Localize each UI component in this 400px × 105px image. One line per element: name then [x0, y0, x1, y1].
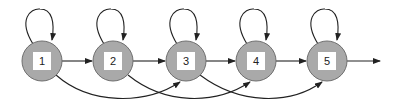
- node-3: 3: [166, 41, 206, 81]
- loop-4: [240, 9, 267, 44]
- node-4: 4: [236, 41, 276, 81]
- node-1: 1: [22, 41, 62, 81]
- node-label: 3: [183, 55, 189, 67]
- loop-3: [170, 9, 197, 44]
- node-label: 4: [253, 55, 259, 67]
- state-diagram: 1 2 3 4 5: [0, 0, 400, 105]
- node-label: 1: [39, 55, 45, 67]
- loop-5: [311, 9, 338, 44]
- node-5: 5: [307, 41, 347, 81]
- self-loops: [26, 9, 338, 44]
- node-label: 5: [324, 55, 330, 67]
- loop-2: [97, 9, 124, 44]
- loop-1: [26, 9, 53, 44]
- node-2: 2: [93, 41, 133, 81]
- node-label: 2: [110, 55, 116, 67]
